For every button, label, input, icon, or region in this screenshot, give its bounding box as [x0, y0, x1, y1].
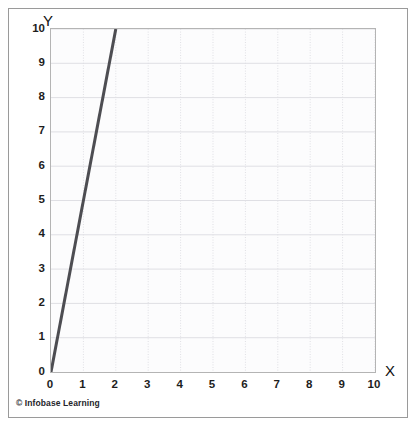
data-series-layer [51, 29, 375, 372]
figure-root: 012345678910 012345678910 Y X © Infobase… [0, 0, 420, 428]
y-tick-label: 3 [19, 263, 45, 275]
x-tick-label: 4 [167, 379, 193, 391]
data-line-0 [51, 29, 116, 372]
x-tick-label: 9 [329, 379, 355, 391]
x-axis-title: X [385, 363, 395, 378]
y-tick-label: 1 [19, 331, 45, 343]
x-tick-label: 7 [264, 379, 290, 391]
y-tick-label: 4 [19, 228, 45, 240]
y-axis-title: Y [43, 13, 53, 28]
y-tick-label: 8 [19, 91, 45, 103]
x-tick-label: 1 [69, 379, 95, 391]
x-tick-label: 8 [296, 379, 322, 391]
y-tick-label: 10 [19, 23, 45, 35]
x-tick-label: 5 [199, 379, 225, 391]
x-tick-label: 0 [37, 379, 63, 391]
y-tick-label: 5 [19, 194, 45, 206]
plot-area [50, 28, 376, 373]
y-tick-label: 7 [19, 125, 45, 137]
y-tick-label: 2 [19, 297, 45, 309]
x-tick-label: 6 [231, 379, 257, 391]
y-tick-label: 9 [19, 57, 45, 69]
copyright-credit: © Infobase Learning [16, 398, 100, 408]
x-tick-label: 3 [134, 379, 160, 391]
y-tick-label: 0 [19, 366, 45, 378]
y-tick-label: 6 [19, 160, 45, 172]
x-tick-label: 10 [361, 379, 387, 391]
x-tick-label: 2 [102, 379, 128, 391]
